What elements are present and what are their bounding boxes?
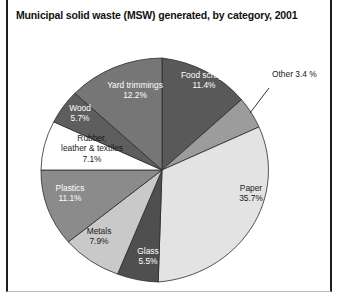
leader-line-other	[250, 88, 269, 113]
pie-label-plastics: Plastics 11.1%	[44, 183, 96, 204]
pie-label-metals: Metals 7.9%	[76, 226, 122, 247]
pie-label-rubber-line1: Rubber,	[77, 133, 106, 143]
pie-label-wood-value: 5.7%	[58, 113, 102, 123]
pie-label-rubber-leather-textiles: Rubber, leather & textiles 7.1%	[45, 133, 139, 164]
pie-label-wood: Wood 5.7%	[58, 103, 102, 124]
pie-label-other-name: Other	[272, 69, 293, 79]
pie-label-food-scraps: Food scraps 11.4%	[168, 70, 240, 91]
pie-label-paper: Paper 35.7%	[227, 183, 275, 204]
chart-figure: Municipal solid waste (MSW) generated, b…	[0, 0, 342, 294]
pie-label-rubber-value: 7.1%	[45, 154, 139, 164]
pie-label-glass-value: 5.5%	[128, 256, 168, 266]
pie-label-metals-value: 7.9%	[76, 236, 122, 246]
pie-label-yard-trimmings-name: Yard trimmings	[107, 80, 163, 90]
pie-label-food-scraps-name: Food scraps	[181, 70, 227, 80]
pie-label-paper-name: Paper	[240, 183, 262, 193]
other-leader-line	[250, 88, 269, 113]
pie-label-glass: Glass 5.5%	[128, 246, 168, 267]
pie-label-paper-value: 35.7%	[227, 193, 275, 203]
pie-label-wood-name: Wood	[69, 103, 91, 113]
pie-label-other: Other 3.4 %	[272, 69, 317, 79]
pie-label-glass-name: Glass	[137, 246, 158, 256]
pie-label-rubber-line2: leather & textiles	[45, 143, 139, 153]
pie-label-other-value: 3.4 %	[295, 69, 316, 79]
pie-label-yard-trimmings: Yard trimmings 12.2%	[94, 80, 176, 101]
pie-label-plastics-name: Plastics	[56, 183, 85, 193]
pie-label-food-scraps-value: 11.4%	[168, 80, 240, 90]
pie-label-plastics-value: 11.1%	[44, 193, 96, 203]
pie-label-yard-trimmings-value: 12.2%	[94, 90, 176, 100]
pie-label-metals-name: Metals	[87, 226, 112, 236]
